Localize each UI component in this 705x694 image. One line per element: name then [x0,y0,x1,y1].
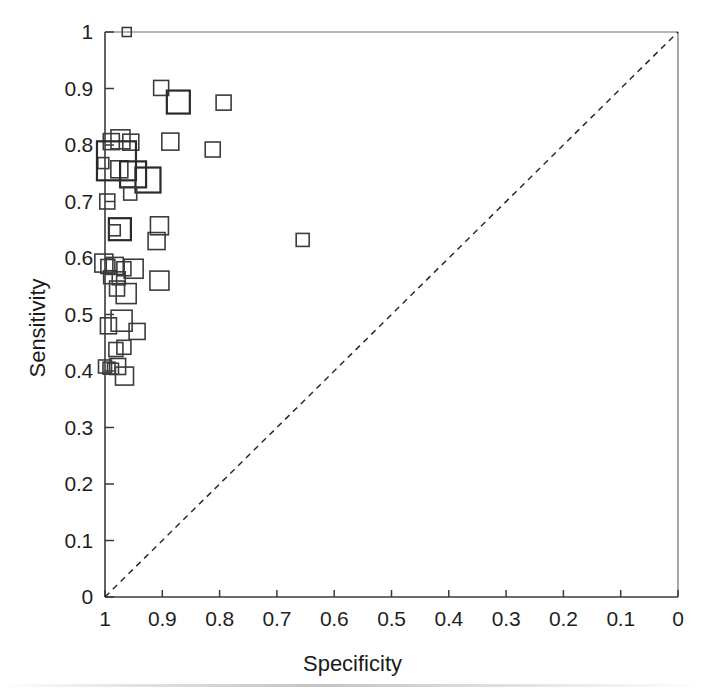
data-point-marker [167,91,190,114]
y-axis-tick-label: 0.2 [27,472,93,496]
x-axis-tick-label: 0 [672,607,683,631]
data-point-marker [150,271,169,290]
data-point-marker [216,95,231,110]
x-axis-tick-label: 0.8 [205,607,234,631]
x-axis-tick-label: 0.4 [435,607,464,631]
data-point-markers [95,28,309,386]
data-point-marker [135,168,160,193]
y-axis-title: Sensitivity [25,228,51,428]
x-axis-tick-label: 1 [99,607,110,631]
y-axis-tick-label: 1 [27,20,93,44]
data-point-marker [296,233,309,246]
y-axis-ticks [105,32,114,597]
y-axis-tick-label: 0.8 [27,133,93,157]
x-axis-tick-label: 0.2 [549,607,578,631]
data-point-marker [116,284,136,304]
data-point-marker [162,133,179,150]
roc-figure: 10.90.80.70.60.50.40.30.20.10 00.10.20.3… [0,0,705,694]
y-axis-tick-label: 0 [27,585,93,609]
scan-artifact-line [0,684,705,687]
x-axis-tick-label: 0.7 [263,607,292,631]
x-axis-tick-label: 0.9 [148,607,177,631]
y-axis-tick-label: 0.7 [27,190,93,214]
x-axis-title: Specificity [0,651,705,677]
data-point-marker [111,130,130,149]
x-axis-tick-label: 0.1 [606,607,635,631]
data-point-marker [205,142,220,157]
data-point-marker [120,161,146,187]
y-axis-tick-label: 0.9 [27,77,93,101]
x-axis-tick-label: 0.3 [492,607,521,631]
x-axis-ticks [105,590,678,597]
x-axis-tick-label: 0.5 [377,607,406,631]
data-point-marker [109,225,120,236]
scatter-plot-canvas [0,0,705,694]
data-point-marker [98,158,109,169]
x-axis-tick-label: 0.6 [320,607,349,631]
reference-diagonal-line [105,32,678,597]
y-axis-tick-label: 0.1 [27,529,93,553]
